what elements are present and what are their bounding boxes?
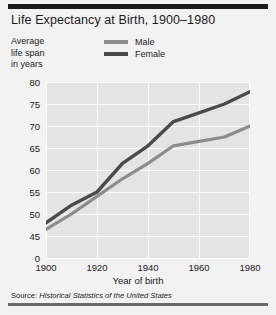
y-axis-tick-label: 50 — [6, 209, 40, 220]
legend-item-male: Male — [104, 36, 165, 48]
x-axis-tick-label: 1960 — [188, 262, 209, 273]
y-axis-tick-labels: 80757065605550450 — [6, 82, 40, 258]
y-axis-caption-line-1: Average — [11, 36, 45, 48]
x-axis-tick-label: 1980 — [239, 262, 260, 273]
y-axis-tick-label: 70 — [6, 121, 40, 132]
gridline-horizontal — [46, 258, 250, 259]
y-axis-caption-line-2: life span — [11, 48, 45, 60]
legend-swatch-male-icon — [104, 40, 128, 44]
y-axis-tick-label: 45 — [6, 231, 40, 242]
chart-legend: Male Female — [104, 36, 165, 60]
page-title: Life Expectancy at Birth, 1900–1980 — [11, 13, 215, 27]
x-axis-tick-label: 1940 — [137, 262, 158, 273]
y-axis-caption: Average life span in years — [11, 36, 45, 71]
legend-label-male: Male — [135, 36, 155, 48]
plot-series-svg — [46, 82, 250, 258]
source-title: Historical Statistics of the United Stat… — [39, 291, 172, 300]
x-axis-title: Year of birth — [0, 275, 276, 286]
y-axis-tick-label: 60 — [6, 165, 40, 176]
y-axis-caption-line-3: in years — [11, 59, 45, 71]
legend-item-female: Female — [104, 48, 165, 60]
y-axis-tick-label: 75 — [6, 99, 40, 110]
y-axis-tick-label: 65 — [6, 143, 40, 154]
source-note: Source: Historical Statistics of the Uni… — [11, 291, 172, 300]
bottom-divider-rule — [8, 303, 268, 306]
x-axis-tick-labels: 19001920194019601980 — [46, 262, 250, 276]
line-series-female — [46, 92, 250, 223]
source-label: Source: — [11, 291, 37, 300]
y-axis-tick-label: 55 — [6, 187, 40, 198]
top-divider-rule — [8, 4, 268, 9]
line-series-male — [46, 126, 250, 229]
x-axis-tick-label: 1900 — [35, 262, 56, 273]
legend-swatch-female-icon — [104, 52, 128, 56]
y-axis-tick-label: 80 — [6, 77, 40, 88]
x-axis-tick-label: 1920 — [86, 262, 107, 273]
life-expectancy-chart-figure: Life Expectancy at Birth, 1900–1980 Aver… — [0, 0, 276, 315]
plot-area — [46, 82, 250, 258]
legend-label-female: Female — [135, 48, 165, 60]
